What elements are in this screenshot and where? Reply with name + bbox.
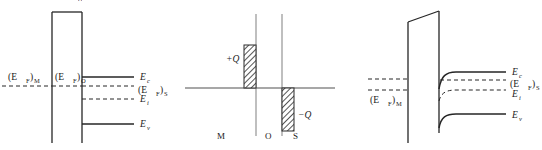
ev-label: E v	[511, 110, 522, 122]
svg-text:S: S	[536, 84, 540, 91]
svg-text:c: c	[519, 72, 522, 79]
negative-charge-block	[282, 88, 294, 131]
panel-middle-svg: +Q −Q M O S	[180, 0, 360, 150]
clipped-top-glyph: δ	[78, 0, 82, 1]
svg-text:E: E	[511, 67, 518, 77]
positive-charge-block	[244, 45, 256, 88]
region-label-semiconductor: S	[293, 131, 298, 141]
negative-charge-label: −Q	[298, 110, 311, 120]
panel-mos-equilibrium: δ (E F )	[0, 0, 180, 150]
ev-bent-curve	[439, 114, 506, 128]
region-label-metal: M	[217, 131, 225, 141]
ei-bent-curve	[439, 90, 506, 101]
svg-text:v: v	[147, 124, 150, 131]
svg-text:): )	[160, 85, 163, 96]
ev-label: E v	[139, 119, 150, 131]
svg-text:i: i	[519, 94, 521, 101]
panel-left-svg: (E F ) M (E F ) O E c (E F ) S	[0, 0, 180, 150]
svg-text:(E: (E	[55, 72, 64, 83]
svg-text:): )	[30, 72, 33, 83]
figure-root: δ (E F )	[0, 0, 542, 150]
ef-metal-label: (E F ) M	[8, 72, 40, 84]
svg-text:M: M	[396, 100, 402, 107]
svg-text:): )	[77, 72, 80, 83]
ei-label: E i	[511, 89, 521, 101]
svg-text:E: E	[511, 110, 518, 120]
svg-text:(E: (E	[8, 72, 17, 83]
svg-text:c: c	[147, 77, 150, 84]
svg-text:E: E	[511, 89, 518, 99]
panel-band-bending: (E F ) M E c (E F ) S E i	[360, 0, 542, 150]
ec-label: E c	[139, 72, 150, 84]
ef-metal-label: (E F ) M	[370, 95, 402, 107]
svg-text:E: E	[139, 119, 146, 129]
svg-text:v: v	[519, 115, 522, 122]
svg-text:O: O	[81, 77, 86, 84]
region-label-oxide: O	[265, 131, 272, 141]
svg-text:(E: (E	[370, 95, 379, 106]
positive-charge-label: +Q	[226, 54, 239, 64]
svg-text:): )	[392, 95, 395, 106]
ec-label: E c	[511, 67, 522, 79]
ei-label: E i	[139, 94, 149, 106]
svg-text:i: i	[147, 99, 149, 106]
panel-right-svg: (E F ) M E c (E F ) S E i	[360, 0, 542, 150]
oxide-barrier-tilted	[408, 11, 439, 143]
svg-text:): )	[532, 79, 535, 90]
svg-text:E: E	[139, 72, 146, 82]
svg-text:S: S	[164, 90, 168, 97]
svg-text:E: E	[139, 94, 146, 104]
panel-charge-distribution: +Q −Q M O S	[180, 0, 360, 150]
svg-text:M: M	[34, 77, 40, 84]
